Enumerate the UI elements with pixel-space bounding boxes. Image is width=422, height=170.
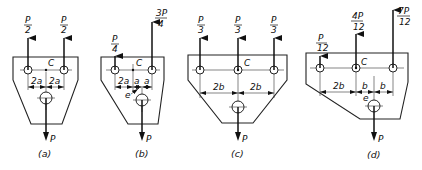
centroid-label: C [244,58,251,68]
panel-d: 2b b b e C P 12 4P 12 7P 12 P (d) [306,6,411,160]
load-label: P [50,134,56,144]
dimension-label: b [380,81,386,91]
dimension-label: a [144,76,150,86]
svg-text:P: P [271,15,277,25]
load-label: P [378,134,384,144]
arrowhead-down-icon [235,132,241,141]
svg-text:2: 2 [61,25,67,35]
svg-text:P: P [198,15,204,25]
dimension-label: 2a [31,76,42,86]
svg-text:3P: 3P [156,8,168,18]
force-label: 4P 12 [351,11,365,32]
force-label: 3P 4 [155,8,168,29]
eccentricity-label: e [363,93,369,103]
arrowhead-down-icon [43,132,49,141]
panel-caption: (b) [135,148,148,159]
svg-text:P: P [112,34,118,44]
svg-text:P: P [61,15,67,25]
dimension-label: 2b [213,82,225,92]
centroid-label: C [361,57,368,67]
panel-caption: (d) [367,149,380,160]
dimension-label: b [362,81,368,91]
svg-text:7P: 7P [398,6,410,16]
eccentricity-label: e [125,90,131,100]
svg-text:P: P [25,15,31,25]
force-label: P 2 [24,15,32,35]
centroid-label: C [48,58,55,68]
svg-text:P: P [318,33,324,43]
svg-text:3: 3 [235,25,241,35]
svg-text:12: 12 [353,22,365,32]
force-label: P 12 [316,33,329,53]
dimension-label: a [134,76,140,86]
dimension-label: 2b [333,81,345,91]
force-label: P 3 [270,15,278,35]
svg-text:4: 4 [112,44,118,54]
svg-text:12: 12 [399,17,411,27]
dimension-label: 2b [250,82,262,92]
panel-b: 2a a a e C P 4 3P 4 P (b) [101,8,168,159]
svg-text:3: 3 [198,25,204,35]
load-label: P [242,134,248,144]
dimension-label: 2a [49,76,60,86]
centroid-label: C [136,58,143,68]
force-label: P 4 [111,34,119,54]
force-label: 7P 12 [397,6,411,27]
svg-text:3: 3 [271,25,277,35]
panel-a: 2a 2a C P 2 P 2 P (a) [13,15,78,159]
panel-c: 2b 2b C P 3 P 3 P 3 P (c) [188,15,287,159]
svg-text:2: 2 [25,25,31,35]
dimension-label: 2a [118,76,129,86]
bracket-load-distribution-figure: 2a 2a C P 2 P 2 P (a) [0,0,422,170]
panel-caption: (c) [231,148,244,159]
arrowhead-down-icon [371,132,377,141]
force-label: P 3 [197,15,205,35]
arrowhead-down-icon [139,132,145,141]
force-label: P 3 [234,15,242,35]
eccentricity-leader [131,89,138,94]
svg-text:4P: 4P [352,11,364,21]
centroid-point [132,69,134,71]
svg-text:4: 4 [158,19,164,29]
svg-text:P: P [235,15,241,25]
force-label: P 2 [60,15,68,35]
load-label: P [146,134,152,144]
svg-text:12: 12 [317,43,329,53]
centroid-point [45,69,47,71]
panel-caption: (a) [38,148,51,159]
